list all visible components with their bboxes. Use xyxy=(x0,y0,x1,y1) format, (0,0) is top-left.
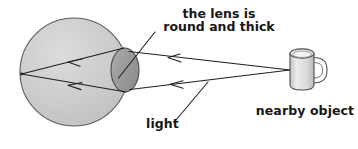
lens-label-line-2: round and thick xyxy=(163,19,275,34)
upper-incoming-ray-arrowhead xyxy=(168,54,181,62)
lower-incoming-ray xyxy=(130,70,290,90)
lens-diagram: the lens is round and thick light nearby… xyxy=(0,0,358,149)
focal-point xyxy=(20,73,23,76)
object-label: nearby object xyxy=(256,103,354,118)
mug-body xyxy=(290,54,314,91)
mug-rim-inner xyxy=(293,51,312,57)
diagram-canvas: the lens is round and thick light nearby… xyxy=(0,0,358,149)
mug-object xyxy=(290,49,327,90)
light-label: light xyxy=(146,116,179,131)
lower-incoming-ray-arrowhead xyxy=(170,81,183,89)
upper-incoming-ray xyxy=(129,52,290,71)
